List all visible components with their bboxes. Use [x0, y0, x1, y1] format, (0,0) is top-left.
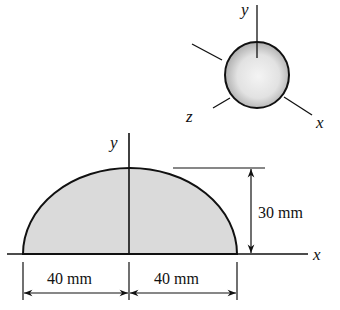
half-ellipse-area: [23, 168, 237, 254]
x-axis-label: x: [312, 245, 321, 264]
inset-x-axis: [284, 97, 312, 115]
inset-z-axis-front: [213, 98, 230, 108]
y-axis-label: y: [108, 133, 118, 152]
left-width-label: 40 mm: [47, 270, 92, 287]
half-ellipse-figure: x y: [7, 133, 321, 264]
right-width-label: 40 mm: [154, 270, 199, 287]
inset-y-label: y: [239, 0, 249, 19]
inset-x-label: x: [315, 113, 324, 132]
inset-z-axis-back: [192, 44, 222, 60]
inset-z-label: z: [185, 107, 193, 126]
width-dimensions: 40 mm 40 mm: [23, 262, 237, 300]
diagram-canvas: y z x x y 30 mm 40 mm 40 mm: [0, 0, 340, 310]
ellipsoid-inset: y z x: [185, 0, 324, 132]
height-dimension-label: 30 mm: [258, 204, 303, 221]
